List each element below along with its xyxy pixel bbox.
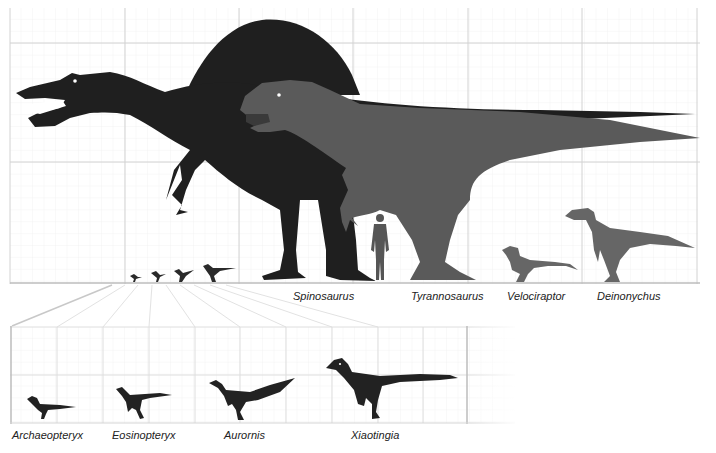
label-eosinopteryx: Eosinopteryx — [112, 429, 176, 441]
label-xiaotingia: Xiaotingia — [351, 429, 399, 441]
label-spinosaurus: Spinosaurus — [293, 290, 354, 302]
label-velociraptor: Velociraptor — [507, 290, 565, 302]
label-aurornis: Aurornis — [224, 429, 265, 441]
diagram-canvas — [0, 0, 716, 453]
size-comparison-diagram: Spinosaurus Tyrannosaurus Velociraptor D… — [0, 0, 716, 453]
label-tyrannosaurus: Tyrannosaurus — [411, 290, 484, 302]
label-archaeopteryx: Archaeopteryx — [12, 429, 83, 441]
label-deinonychus: Deinonychus — [597, 290, 661, 302]
